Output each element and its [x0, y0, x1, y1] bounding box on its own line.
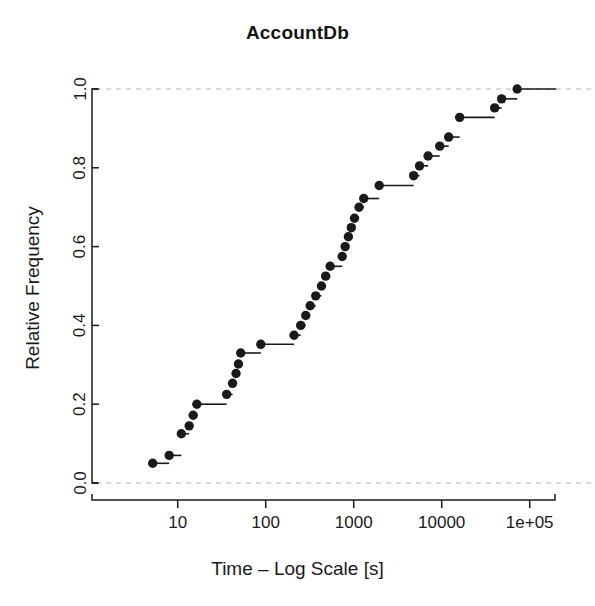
x-tick-label: 10000	[418, 513, 465, 532]
data-point	[354, 203, 363, 212]
y-axis: 0.00.20.40.60.81.0	[71, 77, 100, 495]
data-point	[375, 181, 384, 190]
data-point	[289, 331, 298, 340]
data-point	[490, 103, 499, 112]
x-tick-label: 100	[252, 513, 280, 532]
data-point	[347, 223, 356, 232]
data-point	[236, 348, 245, 357]
y-axis-title: Relative Frequency	[22, 206, 43, 370]
x-axis: 101001000100001e+05	[92, 494, 555, 532]
data-point	[148, 459, 157, 468]
data-point	[228, 379, 237, 388]
data-point	[231, 369, 240, 378]
y-tick-label: 0.6	[71, 235, 90, 259]
data-point	[340, 242, 349, 251]
data-point	[177, 429, 186, 438]
chart-figure: AccountDb 0.00.20.40.60.81.0 10100100010…	[0, 0, 595, 606]
data-point	[317, 281, 326, 290]
data-point	[344, 232, 353, 241]
data-point	[444, 132, 453, 141]
data-point	[305, 301, 314, 310]
data-point	[415, 161, 424, 170]
data-point	[184, 421, 193, 430]
data-point	[296, 321, 305, 330]
x-tick-label: 1e+05	[506, 513, 554, 532]
data-point	[325, 262, 334, 271]
data-point	[192, 400, 201, 409]
y-tick-label: 0.8	[71, 156, 90, 180]
data-point	[359, 194, 368, 203]
y-tick-label: 0.4	[71, 314, 90, 338]
data-point	[188, 411, 197, 420]
y-tick-label: 1.0	[71, 77, 90, 101]
x-axis-title: Time – Log Scale [s]	[0, 558, 595, 580]
y-tick-label: 0.0	[71, 471, 90, 495]
data-point	[321, 271, 330, 280]
data-point	[423, 151, 432, 160]
data-point	[301, 311, 310, 320]
data-point	[455, 113, 464, 122]
data-point	[222, 390, 231, 399]
y-axis-title-wrapper: Relative Frequency	[22, 88, 44, 488]
data-series-ecdf	[148, 84, 556, 468]
reference-lines	[96, 89, 592, 483]
data-point	[350, 214, 359, 223]
data-point	[512, 84, 521, 93]
y-tick-label: 0.2	[71, 392, 90, 416]
y-axis-spine	[92, 89, 98, 483]
x-axis-spine	[92, 494, 555, 500]
plot-canvas: 0.00.20.40.60.81.0 101001000100001e+05	[0, 0, 595, 606]
data-point	[234, 359, 243, 368]
data-point	[337, 252, 346, 261]
data-point	[311, 291, 320, 300]
data-point	[435, 141, 444, 150]
x-tick-label: 10	[168, 513, 187, 532]
x-tick-label: 1000	[335, 513, 373, 532]
data-point	[164, 451, 173, 460]
data-point	[409, 171, 418, 180]
data-point	[256, 340, 265, 349]
data-point	[497, 94, 506, 103]
